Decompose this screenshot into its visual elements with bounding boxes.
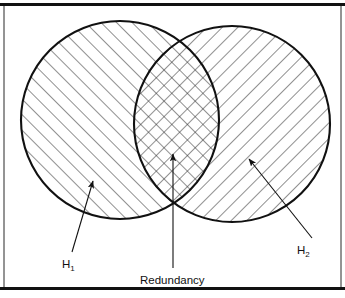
- callout-labels: H1 Redundancy H2: [62, 244, 310, 286]
- label-h2: H2: [297, 244, 310, 259]
- figure-container: H1 Redundancy H2: [0, 0, 345, 298]
- label-h1: H1: [62, 258, 75, 273]
- venn-diagram-svg: H1 Redundancy H2: [0, 0, 345, 298]
- label-redundancy: Redundancy: [140, 274, 205, 286]
